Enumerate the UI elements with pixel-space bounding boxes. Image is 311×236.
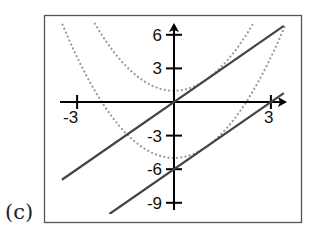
chart: -3363-3-6-9 (c) bbox=[0, 0, 311, 236]
plot-content: -3363-3-6-9 bbox=[60, 23, 287, 214]
y-tick-label: 3 bbox=[153, 59, 162, 78]
line-y-2x-minus-6 bbox=[109, 93, 283, 214]
panel-label: (c) bbox=[5, 200, 33, 224]
x-tick-label: 3 bbox=[264, 108, 273, 127]
x-tick-label: -3 bbox=[63, 108, 78, 127]
y-tick-label: 6 bbox=[153, 26, 162, 45]
y-tick-label: -9 bbox=[147, 194, 162, 213]
y-tick-label: -6 bbox=[147, 160, 162, 179]
y-tick-label: -3 bbox=[147, 127, 162, 146]
